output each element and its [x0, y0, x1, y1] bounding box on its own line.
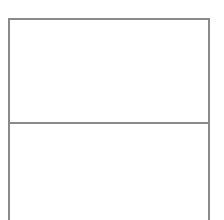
wireframe-frame: [8, 18, 210, 220]
bottom-panel: [10, 124, 208, 220]
top-panel: [10, 20, 208, 124]
